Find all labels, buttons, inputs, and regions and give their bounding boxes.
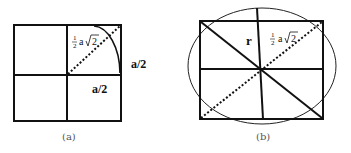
figure-a: 1 2 a 2 a/2 a/2 (a) [14,25,146,142]
diag-expr-b: a [278,33,283,44]
radius-label-b: r [246,33,252,48]
right-side-label-a: a/2 [131,57,146,71]
diagram-canvas: 1 2 a 2 a/2 a/2 (a) r 1 2 a 2 (b) [0,0,351,153]
quarter-arc-a [94,26,120,73]
half-den-a: 2 [73,42,77,50]
half-den-b: 2 [271,39,275,47]
caption-a: (a) [62,131,76,142]
figure-b: r 1 2 a 2 (b) [188,8,336,142]
caption-b: (b) [256,131,270,142]
bottom-side-label-a: a/2 [92,82,107,96]
diag-expr-a: a [79,36,84,47]
half-num-a: 1 [73,34,77,42]
sqrt-arg-b: 2 [291,33,296,44]
radius-vertical-b [257,8,263,119]
sqrt-arg-a: 2 [92,36,97,47]
half-num-b: 1 [271,31,275,39]
